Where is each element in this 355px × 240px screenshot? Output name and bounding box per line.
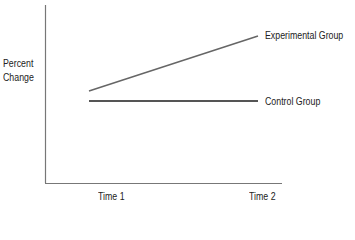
x-tick-time-2: Time 2 xyxy=(249,191,276,203)
control-group-label: Control Group xyxy=(265,96,320,108)
experimental-group-line xyxy=(89,36,258,91)
y-axis-label-line1: Percent xyxy=(3,57,34,71)
x-tick-time-1: Time 1 xyxy=(98,191,125,203)
experimental-group-label: Experimental Group xyxy=(265,30,343,42)
y-axis-label-line2: Change xyxy=(3,71,34,85)
y-axis-label: Percent Change xyxy=(3,57,34,85)
